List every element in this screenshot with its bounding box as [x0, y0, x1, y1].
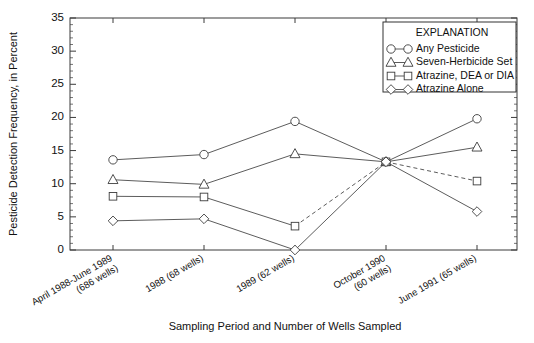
x-tick-label-line: 1989 (62 wells) [234, 252, 296, 294]
data-point [200, 193, 208, 201]
x-tick-label: 1988 (68 wells) [143, 252, 205, 294]
x-axis-labels: April 1988-June 1989(686 wells)1988 (68 … [30, 252, 478, 317]
legend-marker [387, 72, 395, 80]
series-square [109, 158, 481, 230]
data-point [291, 117, 299, 125]
legend-marker [387, 45, 395, 53]
series-triangle [108, 142, 482, 188]
y-tick-label: 35 [51, 11, 64, 23]
y-axis-title: Pesticide Detection Frequency, in Percen… [7, 32, 19, 236]
data-point [290, 149, 300, 158]
legend-marker [404, 72, 412, 80]
data-point [199, 214, 209, 224]
data-point [109, 156, 117, 164]
x-tick-label: 1989 (62 wells) [234, 252, 296, 294]
line-chart: 05101520253035 Pesticide Detection Frequ… [0, 0, 534, 343]
legend: EXPLANATION Any PesticideSeven-Herbicide… [383, 22, 516, 94]
data-point [291, 222, 299, 230]
x-tick-label: June 1991 (65 wells) [396, 252, 478, 306]
y-tick-label: 5 [58, 210, 64, 222]
data-point [472, 142, 482, 151]
data-point [472, 207, 482, 217]
data-point [473, 177, 481, 185]
data-point [108, 216, 118, 226]
y-tick-label: 15 [51, 144, 64, 156]
legend-label: Atrazine Alone [416, 82, 484, 94]
data-point [473, 115, 481, 123]
chart-container: 05101520253035 Pesticide Detection Frequ… [0, 0, 534, 343]
data-point [108, 174, 118, 183]
legend-label: Atrazine, DEA or DIA [416, 69, 514, 81]
data-series-group [108, 115, 482, 255]
series-circle [109, 115, 481, 166]
x-tick-label-line: June 1991 (65 wells) [396, 252, 478, 306]
y-tick-label: 30 [51, 44, 64, 56]
y-tick-label: 10 [51, 177, 64, 189]
legend-label: Seven-Herbicide Set [416, 55, 512, 67]
y-tick-label: 0 [58, 243, 64, 255]
data-point [200, 150, 208, 158]
x-tick-label: October 1990(60 wells) [331, 252, 393, 301]
y-tick-label: 25 [51, 77, 64, 89]
x-axis-title: Sampling Period and Number of Wells Samp… [169, 320, 402, 332]
legend-title: EXPLANATION [416, 26, 489, 38]
data-point [109, 193, 117, 201]
x-tick-label: April 1988-June 1989(686 wells) [30, 252, 120, 317]
y-tick-label: 20 [51, 110, 64, 122]
legend-marker [404, 45, 412, 53]
x-tick-label-line: 1988 (68 wells) [143, 252, 205, 294]
legend-label: Any Pesticide [416, 42, 480, 54]
series-diamond [108, 157, 482, 255]
